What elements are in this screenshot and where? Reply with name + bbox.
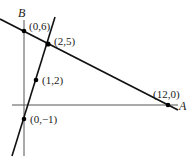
point-label-0-neg1: (0,−1) <box>30 113 58 126</box>
point-label-12-0: (12,0) <box>153 88 180 101</box>
point-label-1-2: (1,2) <box>42 74 63 87</box>
point-label-0-6: (0,6) <box>29 20 50 33</box>
point-2-5 <box>45 41 50 46</box>
diagram-canvas: B A (0,6) (2,5) (1,2) (0,−1) (12,0) <box>0 0 194 160</box>
line-ab <box>0 19 178 110</box>
point-label-2-5: (2,5) <box>54 35 75 48</box>
line-steep <box>12 17 55 156</box>
point-0-neg1 <box>22 117 27 122</box>
point-12-0 <box>166 103 171 108</box>
point-1-2 <box>34 78 39 83</box>
y-axis-label: B <box>18 6 26 20</box>
point-0-6 <box>22 29 27 34</box>
x-axis-label: A <box>178 99 187 113</box>
